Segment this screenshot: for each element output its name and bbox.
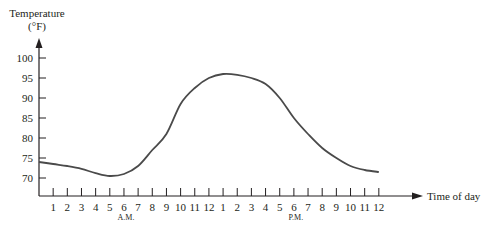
temperature-curve [39, 74, 379, 176]
x-tick-label: 12 [203, 201, 214, 213]
x-axis-title: Time of day [427, 190, 481, 202]
x-tick-label: 10 [175, 201, 187, 213]
x-tick-label: 5 [277, 201, 283, 213]
x-axis-ticks: 123456789101112123456789101112 [50, 188, 384, 213]
x-tick-label: 1 [50, 201, 56, 213]
x-tick-label: 6 [291, 201, 297, 213]
x-axis-arrow-icon [412, 193, 423, 200]
y-axis-title-unit: (°F) [28, 20, 46, 33]
x-tick-label: 8 [319, 201, 325, 213]
x-tick-label: 6 [121, 201, 127, 213]
x-tick-label: 11 [359, 201, 370, 213]
x-tick-label: 3 [249, 201, 255, 213]
y-tick-label: 90 [22, 92, 34, 104]
x-tick-label: 3 [79, 201, 85, 213]
y-tick-label: 80 [22, 132, 34, 144]
x-tick-label: 1 [220, 201, 226, 213]
y-tick-label: 85 [22, 112, 34, 124]
x-tick-label: 9 [164, 201, 170, 213]
pm-label: P.M. [289, 213, 304, 222]
x-tick-label: 9 [334, 201, 340, 213]
y-axis-arrow-icon [36, 38, 43, 48]
y-tick-label: 100 [17, 52, 34, 64]
chart-root: Temperature (°F) 707580859095100 1234567… [0, 0, 488, 234]
x-tick-label: 2 [234, 201, 240, 213]
x-tick-label: 7 [305, 201, 311, 213]
x-tick-label: 11 [189, 201, 200, 213]
y-tick-label: 95 [22, 72, 34, 84]
am-label: A.M. [118, 213, 135, 222]
x-tick-label: 8 [150, 201, 156, 213]
x-tick-label: 12 [373, 201, 384, 213]
y-tick-label: 75 [22, 152, 34, 164]
x-tick-label: 5 [107, 201, 113, 213]
x-tick-label: 2 [65, 201, 71, 213]
x-tick-label: 4 [93, 201, 99, 213]
x-tick-label: 10 [345, 201, 357, 213]
x-tick-label: 7 [135, 201, 141, 213]
temperature-line-chart: Temperature (°F) 707580859095100 1234567… [0, 0, 488, 234]
axes [36, 38, 424, 200]
y-axis-ticks: 707580859095100 [17, 52, 47, 184]
y-axis-title: Temperature (°F) [9, 7, 65, 33]
y-axis-title-line1: Temperature [9, 7, 65, 19]
x-tick-label: 4 [263, 201, 269, 213]
y-tick-label: 70 [22, 172, 34, 184]
